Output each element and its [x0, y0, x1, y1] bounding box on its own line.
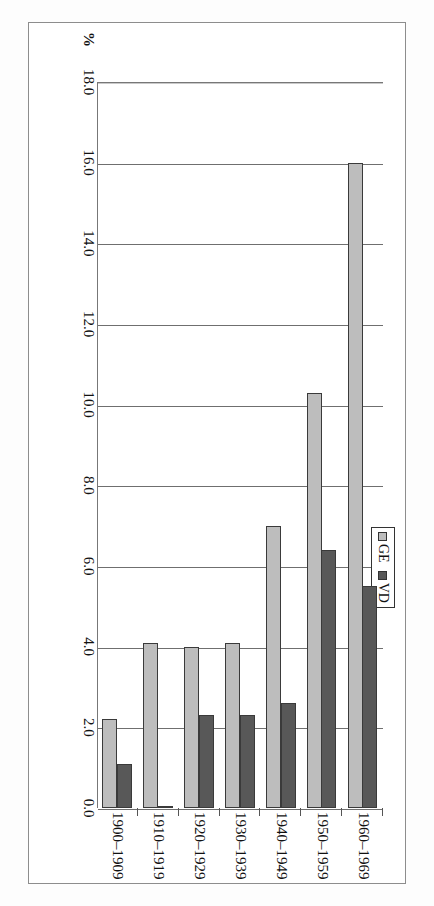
bar-group	[179, 82, 220, 808]
bar-group	[260, 82, 301, 808]
category-axis-labels: 1900–19091910–19191920–19291930–19391940…	[97, 812, 383, 870]
value-tick-8.0: 8.0	[80, 476, 97, 495]
gridline-0.0	[98, 809, 383, 810]
bar-vd	[199, 715, 214, 808]
bar-vd	[240, 715, 255, 808]
bar-ge	[102, 719, 117, 808]
value-axis-ticks: 0.02.04.06.08.010.012.014.016.018.0	[57, 82, 97, 808]
value-tick-0.0: 0.0	[80, 799, 97, 818]
value-tick-16.0: 16.0	[80, 150, 97, 176]
bar-group	[220, 82, 261, 808]
bar-vd	[158, 806, 173, 808]
value-tick-14.0: 14.0	[80, 230, 97, 256]
value-tick-10.0: 10.0	[80, 392, 97, 418]
rotated-chart-container: % 0.02.04.06.08.010.012.014.016.018.0 19…	[37, 30, 397, 876]
category-label: 1940–1949	[272, 812, 289, 870]
bar-ge	[307, 393, 322, 808]
bar-ge	[348, 163, 363, 808]
category-label: 1920–1929	[191, 812, 208, 870]
chart-plot-wrapper: % 0.02.04.06.08.010.012.014.016.018.0 19…	[37, 30, 397, 876]
bar-group	[342, 82, 383, 808]
category-label: 1900–1909	[109, 812, 126, 870]
value-tick-4.0: 4.0	[80, 637, 97, 656]
value-tick-12.0: 12.0	[80, 311, 97, 337]
bar-group	[97, 82, 138, 808]
axis-unit-label: %	[80, 32, 97, 47]
bar-ge	[266, 526, 281, 808]
category-label: 1950–1959	[313, 812, 330, 870]
bar-vd	[117, 764, 132, 808]
bar-ge	[225, 643, 240, 808]
bar-ge	[143, 643, 158, 808]
bar-vd	[321, 550, 336, 808]
category-label: 1930–1939	[232, 812, 249, 870]
figure-border: % 0.02.04.06.08.010.012.014.016.018.0 19…	[28, 22, 406, 884]
value-tick-18.0: 18.0	[80, 69, 97, 95]
bar-vd	[362, 586, 377, 808]
bar-group	[301, 82, 342, 808]
category-label: 1960–1969	[354, 812, 371, 870]
value-tick-6.0: 6.0	[80, 557, 97, 576]
figure-page: % 0.02.04.06.08.010.012.014.016.018.0 19…	[0, 0, 434, 906]
category-label: 1910–1919	[150, 812, 167, 870]
value-tick-2.0: 2.0	[80, 718, 97, 737]
bar-vd	[281, 703, 296, 808]
bar-ge	[184, 647, 199, 808]
bar-group	[138, 82, 179, 808]
